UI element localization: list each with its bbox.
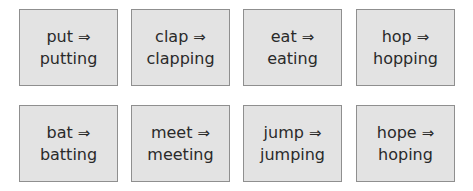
arrow-icon: ⇒ [309,124,322,142]
result-word: eating [267,48,318,69]
result-word: putting [40,48,98,69]
base-word: jump [264,123,304,142]
word-card-put: put⇒ putting [19,9,118,86]
base-word-line: jump⇒ [264,122,322,144]
result-word: meeting [147,144,213,165]
word-card-hope: hope⇒ hoping [356,105,455,182]
arrow-icon: ⇒ [78,28,91,46]
arrow-icon: ⇒ [422,124,435,142]
word-card-hop: hop⇒ hopping [356,9,455,86]
base-word-line: clap⇒ [155,26,206,48]
arrow-icon: ⇒ [302,28,315,46]
base-word: bat [47,123,73,142]
base-word: clap [155,27,188,46]
word-card-eat: eat⇒ eating [243,9,342,86]
arrow-icon: ⇒ [193,28,206,46]
arrow-icon: ⇒ [417,28,430,46]
result-word: hoping [378,144,433,165]
base-word: hop [382,27,412,46]
base-word-line: bat⇒ [47,122,91,144]
word-card-meet: meet⇒ meeting [131,105,230,182]
word-card-jump: jump⇒ jumping [243,105,342,182]
base-word: eat [271,27,297,46]
base-word-line: meet⇒ [151,122,210,144]
result-word: batting [40,144,97,165]
base-word: meet [151,123,193,142]
word-card-bat: bat⇒ batting [19,105,118,182]
base-word-line: hop⇒ [382,26,430,48]
result-word: jumping [260,144,325,165]
result-word: hopping [373,48,438,69]
base-word: hope [377,123,417,142]
base-word-line: put⇒ [46,26,90,48]
arrow-icon: ⇒ [197,124,210,142]
base-word-line: hope⇒ [377,122,435,144]
word-card-clap: clap⇒ clapping [131,9,230,86]
arrow-icon: ⇒ [78,124,91,142]
base-word-line: eat⇒ [271,26,315,48]
base-word: put [46,27,73,46]
result-word: clapping [146,48,214,69]
